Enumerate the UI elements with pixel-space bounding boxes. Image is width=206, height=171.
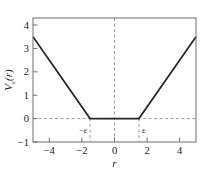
y-tick-labels: −1 0 1 2 3 4 [18,20,30,148]
neg-epsilon-label: −ε [79,126,88,135]
epsilon-insensitive-loss-plot: −4 −2 0 2 4 −1 0 1 2 3 4 −ε ε r Vε(r) [0,0,206,171]
y-tick-label: −1 [18,137,29,148]
y-tick-label: 4 [24,20,30,31]
chart-figure: −4 −2 0 2 4 −1 0 1 2 3 4 −ε ε r Vε(r) [0,0,206,171]
y-tick-label: 0 [24,113,29,124]
x-tick-label: 0 [112,145,117,156]
x-tick-labels: −4 −2 0 2 4 [44,145,183,156]
x-axis-title: r [112,157,117,169]
x-tick-label: −4 [44,145,56,156]
y-tick-label: 2 [24,66,29,77]
y-axis-title: Vε(r) [2,69,17,91]
x-tick-label: 2 [144,145,149,156]
y-axis-title-argument: (r) [2,69,15,81]
svg-text:Vε(r): Vε(r) [2,69,17,91]
x-tick-label: 4 [177,145,183,156]
y-tick-label: 1 [24,90,29,101]
x-tick-label: −2 [76,145,87,156]
y-tick-label: 3 [24,43,29,54]
